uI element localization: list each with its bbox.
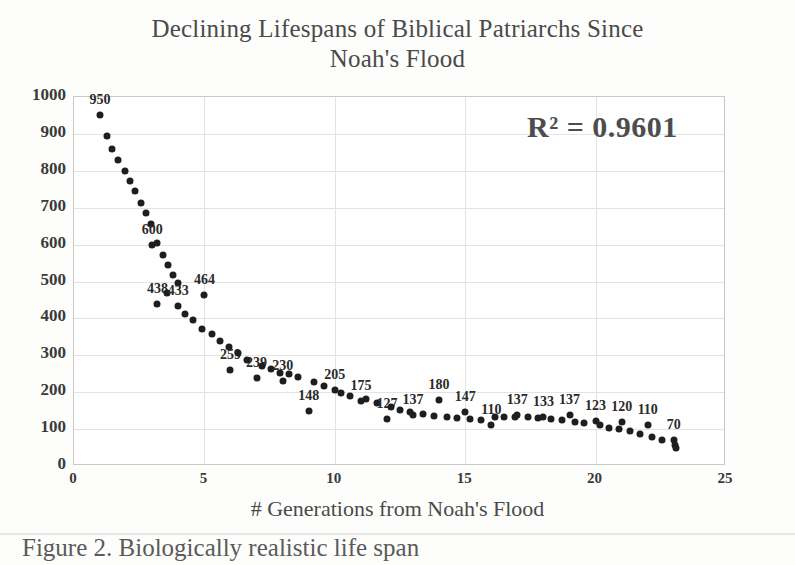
data-point bbox=[644, 422, 651, 429]
data-point bbox=[501, 414, 508, 421]
data-point bbox=[137, 200, 144, 207]
data-point bbox=[310, 378, 317, 385]
data-point bbox=[363, 395, 370, 402]
data-point bbox=[383, 416, 390, 423]
data-point bbox=[659, 437, 666, 444]
data-point-label: 175 bbox=[350, 378, 371, 394]
gridline-horizontal bbox=[74, 208, 724, 209]
gridline-horizontal bbox=[74, 318, 724, 319]
data-point-label: 123 bbox=[585, 398, 606, 414]
data-point bbox=[305, 408, 312, 415]
data-point bbox=[142, 210, 149, 217]
data-point-label: 600 bbox=[142, 222, 163, 238]
data-point-label: 205 bbox=[324, 367, 345, 383]
data-point bbox=[524, 414, 531, 421]
data-point-label: 70 bbox=[667, 417, 681, 433]
data-point bbox=[410, 412, 417, 419]
gridline-horizontal bbox=[74, 392, 724, 393]
plot-area: 9506004384334642592392301482051751271371… bbox=[73, 96, 725, 465]
data-point bbox=[492, 413, 499, 420]
data-point bbox=[154, 239, 161, 246]
x-axis-label: # Generations from Noah's Flood bbox=[0, 496, 795, 522]
x-axis-tick-15: 15 bbox=[457, 470, 472, 487]
data-point-label: 137 bbox=[559, 392, 580, 408]
x-axis-tick-20: 20 bbox=[587, 470, 602, 487]
data-point bbox=[170, 271, 177, 278]
data-point-label: 137 bbox=[403, 392, 424, 408]
y-axis-tick-500: 500 bbox=[4, 270, 66, 290]
data-point bbox=[636, 431, 643, 438]
data-point bbox=[127, 178, 134, 185]
data-point bbox=[97, 112, 104, 119]
data-point bbox=[154, 301, 161, 308]
r-squared-annotation: R² = 0.9601 bbox=[527, 110, 678, 144]
chart-title-line-2: Noah's Flood bbox=[0, 44, 795, 74]
data-point bbox=[253, 374, 260, 381]
y-axis-tick-900: 900 bbox=[4, 122, 66, 142]
data-point bbox=[540, 413, 547, 420]
chart-title-line-1: Declining Lifespans of Biblical Patriarc… bbox=[0, 14, 795, 44]
data-point bbox=[548, 415, 555, 422]
data-point bbox=[198, 326, 205, 333]
gridline-vertical bbox=[335, 97, 336, 464]
y-axis-tick-600: 600 bbox=[4, 233, 66, 253]
figure-caption: Figure 2. Biologically realistic life sp… bbox=[22, 538, 419, 562]
x-axis-tick-10: 10 bbox=[326, 470, 341, 487]
data-point bbox=[258, 362, 265, 369]
x-axis-tick-5: 5 bbox=[200, 470, 208, 487]
data-point bbox=[618, 418, 625, 425]
data-point bbox=[387, 403, 394, 410]
data-point bbox=[467, 415, 474, 422]
scan-page-edge bbox=[0, 533, 795, 535]
y-axis-tick-100: 100 bbox=[4, 417, 66, 437]
data-point bbox=[279, 378, 286, 385]
data-point bbox=[488, 422, 495, 429]
data-point-label: 950 bbox=[90, 92, 111, 108]
data-point bbox=[454, 415, 461, 422]
data-point-label: 147 bbox=[455, 389, 476, 405]
x-axis-tick-25: 25 bbox=[718, 470, 733, 487]
data-point bbox=[616, 426, 623, 433]
data-point bbox=[115, 156, 122, 163]
data-point bbox=[132, 188, 139, 195]
data-point bbox=[514, 412, 521, 419]
data-point bbox=[430, 412, 437, 419]
y-axis-tick-700: 700 bbox=[4, 196, 66, 216]
data-point bbox=[626, 428, 633, 435]
data-point-label: 180 bbox=[429, 377, 450, 393]
y-axis-tick-0: 0 bbox=[4, 454, 66, 474]
data-point-label: 133 bbox=[533, 394, 554, 410]
data-point-label: 120 bbox=[611, 399, 632, 415]
data-point bbox=[181, 310, 188, 317]
data-point bbox=[209, 330, 216, 337]
data-point-label: 137 bbox=[507, 392, 528, 408]
data-point-label: 148 bbox=[298, 388, 319, 404]
data-point bbox=[605, 424, 612, 431]
y-axis-tick-labels: 01002003004005006007008009001000 bbox=[0, 96, 66, 465]
gridline-horizontal bbox=[74, 171, 724, 172]
data-point bbox=[673, 445, 680, 452]
data-point bbox=[121, 167, 128, 174]
data-point bbox=[338, 389, 345, 396]
y-axis-tick-300: 300 bbox=[4, 343, 66, 363]
data-point bbox=[217, 337, 224, 344]
y-axis-tick-1000: 1000 bbox=[4, 85, 66, 105]
data-point-label: 464 bbox=[194, 272, 215, 288]
data-point bbox=[201, 291, 208, 298]
x-axis-tick-0: 0 bbox=[69, 470, 77, 487]
data-point bbox=[558, 417, 565, 424]
data-point bbox=[648, 434, 655, 441]
data-point bbox=[420, 411, 427, 418]
gridline-horizontal bbox=[74, 245, 724, 246]
x-axis-tick-labels: 0510152025 bbox=[73, 470, 725, 494]
data-point bbox=[571, 418, 578, 425]
figure-caption-strip: Figure 2. Biologically realistic life sp… bbox=[0, 538, 795, 565]
data-point bbox=[235, 350, 242, 357]
data-point bbox=[436, 396, 443, 403]
data-point-label: 433 bbox=[168, 283, 189, 299]
gridline-horizontal bbox=[74, 355, 724, 356]
data-point bbox=[108, 145, 115, 152]
chart-title: Declining Lifespans of Biblical Patriarc… bbox=[0, 14, 795, 74]
data-point bbox=[295, 374, 302, 381]
data-point bbox=[596, 422, 603, 429]
